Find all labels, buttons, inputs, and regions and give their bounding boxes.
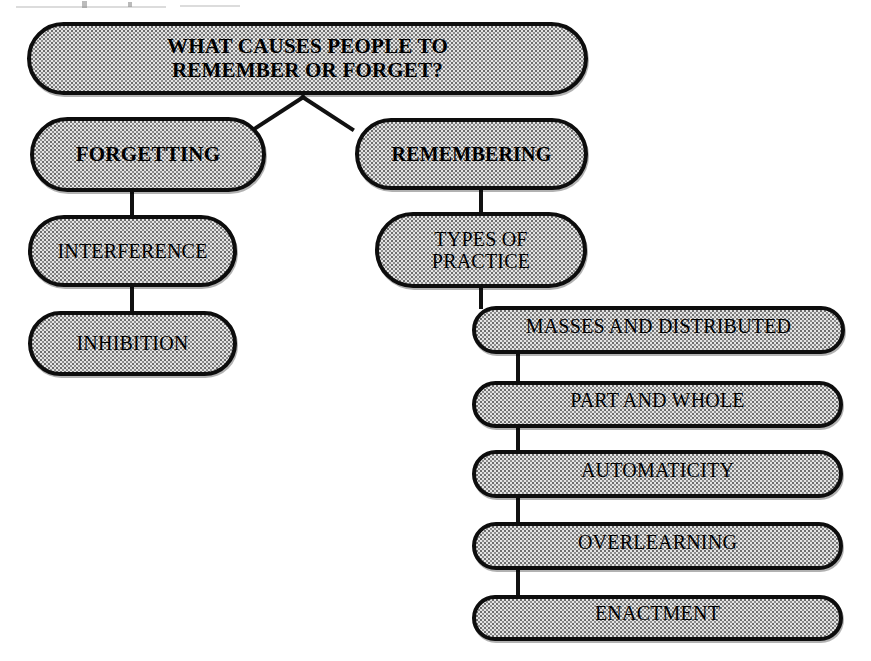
diagram-canvas: WHAT CAUSES PEOPLE TO REMEMBER OR FORGET… xyxy=(0,0,871,661)
connector-part-and-whole-to-automaticity xyxy=(516,425,520,453)
node-masses-and-distributed-label: MASSES AND DISTRIBUTED xyxy=(476,315,841,337)
node-remembering-label: REMEMBERING xyxy=(359,143,584,165)
node-types-of-practice-label: TYPES OF PRACTICE xyxy=(379,228,583,273)
scan-artifact-dot xyxy=(82,1,87,8)
node-masses-and-distributed[interactable]: MASSES AND DISTRIBUTED xyxy=(472,306,845,354)
node-automaticity-label: AUTOMATICITY xyxy=(476,459,839,481)
connector-root-to-forgetting xyxy=(251,94,306,132)
scan-artifact-streak xyxy=(180,5,240,7)
node-remembering[interactable]: REMEMBERING xyxy=(355,118,588,190)
node-overlearning[interactable]: OVERLEARNING xyxy=(472,522,843,570)
connector-forgetting-to-interference xyxy=(130,189,134,218)
node-part-and-whole-label: PART AND WHOLE xyxy=(476,389,839,411)
connector-automaticity-to-overlearning xyxy=(516,495,520,525)
node-root[interactable]: WHAT CAUSES PEOPLE TO REMEMBER OR FORGET… xyxy=(27,22,588,95)
node-inhibition[interactable]: INHIBITION xyxy=(28,311,237,376)
node-forgetting[interactable]: FORGETTING xyxy=(30,117,266,192)
node-types-of-practice[interactable]: TYPES OF PRACTICE xyxy=(375,212,587,288)
node-root-label: WHAT CAUSES PEOPLE TO REMEMBER OR FORGET… xyxy=(31,35,584,82)
node-part-and-whole[interactable]: PART AND WHOLE xyxy=(472,381,843,428)
connector-remembering-to-types-of-practice xyxy=(479,187,483,215)
node-automaticity[interactable]: AUTOMATICITY xyxy=(472,450,843,498)
node-inhibition-label: INHIBITION xyxy=(32,332,233,354)
scan-artifact-streak xyxy=(16,6,166,8)
node-forgetting-label: FORGETTING xyxy=(34,143,262,167)
node-enactment[interactable]: ENACTMENT xyxy=(472,595,843,641)
scan-artifact-dot xyxy=(128,2,132,7)
connector-masses-to-part-and-whole xyxy=(516,351,520,384)
connector-overlearning-to-enactment xyxy=(516,567,520,598)
node-interference[interactable]: INTERFERENCE xyxy=(28,215,237,287)
connector-interference-to-inhibition xyxy=(130,284,134,313)
connector-root-to-remembering xyxy=(300,94,355,132)
node-interference-label: INTERFERENCE xyxy=(32,240,233,262)
node-overlearning-label: OVERLEARNING xyxy=(476,531,839,553)
node-enactment-label: ENACTMENT xyxy=(476,602,839,624)
